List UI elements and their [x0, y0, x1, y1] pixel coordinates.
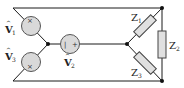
z2-subscript: 2 [176, 45, 180, 52]
source-neutral-node [46, 42, 50, 46]
v2-plus-sign: + [72, 41, 78, 49]
z1-label: Z [131, 12, 138, 23]
v2-hat: ^ [65, 52, 70, 59]
bottom-right-node [160, 79, 164, 83]
top-right-node [160, 6, 164, 10]
impedance-z2: Z 2 [158, 31, 180, 58]
source-v3: × V 3 ^ [4, 46, 41, 72]
impedance-z1: Z 1 [131, 12, 156, 37]
v1-cross-icon: × [27, 17, 33, 25]
source-v2: | + V 2 ^ [61, 35, 80, 70]
v3-cross-icon: × [27, 63, 33, 71]
three-phase-circuit-diagram: × V 1 ^ × V 3 ^ | + V 2 ^ Z 1 Z 2 Z 3 [0, 0, 184, 88]
z2-label: Z [169, 40, 176, 51]
load-neutral-node [125, 42, 129, 46]
source-v1: × V 1 ^ [4, 17, 41, 37]
z2-resistor [158, 31, 166, 58]
v2-subscript: 2 [71, 62, 75, 69]
v2-minus-sign: | [64, 41, 66, 49]
z1-subscript: 1 [138, 17, 142, 24]
v1-hat: ^ [6, 19, 11, 26]
z3-subscript: 3 [138, 72, 142, 79]
z3-label: Z [131, 67, 138, 78]
impedance-z3: Z 3 [131, 52, 156, 79]
v1-subscript: 1 [12, 29, 16, 36]
v3-subscript: 3 [12, 56, 16, 63]
v3-hat: ^ [6, 46, 11, 53]
